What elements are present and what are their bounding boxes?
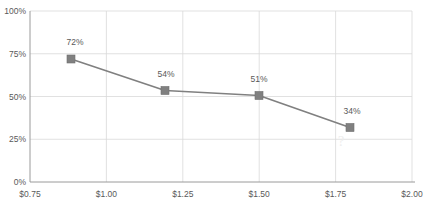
- x-tick-label-1-75: $1.75: [325, 189, 347, 199]
- x-tick-label-1-25: $1.25: [172, 189, 194, 199]
- data-point-marker-1[interactable]: [67, 55, 75, 63]
- data-point-marker-4[interactable]: [346, 124, 354, 132]
- data-point-marker-3[interactable]: [255, 92, 263, 100]
- y-tick-label-100: 100%: [4, 6, 26, 16]
- line-chart: ? 72% 54% 51% 34% 100% 75% 50% 25% 0%: [0, 0, 430, 206]
- y-axis-tick-labels: 100% 75% 50% 25% 0%: [4, 6, 26, 187]
- data-point-marker-2[interactable]: [161, 87, 169, 95]
- x-tick-label-1-00: $1.00: [96, 189, 118, 199]
- x-tick-label-0-75: $0.75: [19, 189, 41, 199]
- y-tick-label-0: 0%: [14, 177, 27, 187]
- data-label-1: 72%: [66, 37, 83, 47]
- chart-svg: ? 72% 54% 51% 34% 100% 75% 50% 25% 0%: [0, 0, 430, 206]
- data-label-3: 51%: [250, 74, 267, 84]
- y-tick-label-25: 25%: [9, 134, 26, 144]
- y-tick-label-75: 75%: [9, 49, 26, 59]
- watermark-artifact: ?: [338, 134, 344, 149]
- x-tick-label-1-50: $1.50: [249, 189, 271, 199]
- data-label-4: 34%: [343, 106, 360, 116]
- data-label-2: 54%: [157, 69, 174, 79]
- y-tick-label-50: 50%: [9, 92, 26, 102]
- x-tick-label-2-00: $2.00: [401, 189, 423, 199]
- x-axis-tick-labels: $0.75 $1.00 $1.25 $1.50 $1.75 $2.00: [19, 189, 423, 199]
